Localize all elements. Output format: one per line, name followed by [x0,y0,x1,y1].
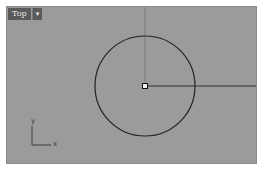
y-axis-label: y [31,118,35,125]
viewport-top[interactable]: Top ▾ y x [6,6,257,164]
drawing-canvas[interactable] [7,7,257,164]
axis-icon [32,126,51,145]
center-point-marker [143,84,148,89]
x-axis-label: x [53,141,57,148]
